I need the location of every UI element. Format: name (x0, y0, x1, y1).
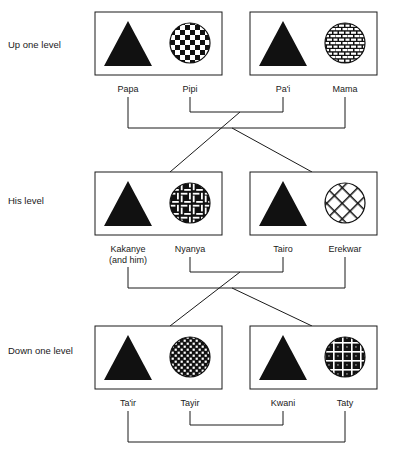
person-label-nyanya: Nyanya (175, 244, 206, 254)
person-label-kakanye: Kakanye (110, 244, 145, 254)
female-symbol-taty (325, 337, 365, 377)
person-label-pai: Pa'i (276, 84, 291, 94)
level-label-his-level: His level (8, 195, 44, 206)
kinship-diagram: Up one level His level Down one level Pa… (0, 0, 397, 455)
kinship-diagram-canvas: Up one level His level Down one level Pa… (0, 0, 397, 455)
level-group-his-level: Kakanye (and him) Nyanya Tairo Erekwar (95, 172, 377, 265)
person-label-pipi: Pipi (182, 84, 197, 94)
level-group-up-one-level: Papa Pipi Pa'i Mama (95, 12, 377, 94)
female-symbol-tayir (170, 337, 210, 377)
female-symbol-nyanya (170, 183, 210, 223)
person-label-taty: Taty (337, 398, 354, 408)
connector-group-level1-level2 (128, 97, 345, 172)
level-group-down-one-level: Ta'ir Tayir Kwani Taty (95, 326, 377, 408)
connector-group-level3-terminal (128, 411, 345, 442)
descent-line-kakanye-erekwar-to-kwani (232, 288, 312, 326)
marriage-bracket-pipi-pai (190, 97, 283, 112)
marriage-bracket-tayir-kwani (190, 411, 283, 425)
level-label-down-one-level: Down one level (8, 345, 73, 356)
marriage-bracket-tair-taty (128, 411, 345, 442)
level-label-up-one-level: Up one level (8, 39, 61, 50)
descent-line-nyanya-tairo-to-tair (170, 272, 240, 326)
person-label-tairo: Tairo (273, 244, 293, 254)
person-label-kakanye-subtitle: (and him) (109, 255, 147, 265)
female-symbol-mama (325, 23, 365, 63)
person-label-erekwar: Erekwar (328, 244, 361, 254)
marriage-bracket-nyanya-tairo (190, 257, 283, 272)
person-label-mama: Mama (332, 84, 357, 94)
descent-line-pipi-pai-to-kakanye (170, 112, 240, 172)
connector-group-level2-level3 (128, 257, 345, 326)
person-label-tayir: Tayir (180, 398, 199, 408)
female-symbol-erekwar (325, 183, 365, 223)
descent-line-papa-mama-to-tairo (232, 128, 312, 172)
person-label-papa: Papa (117, 84, 138, 94)
female-symbol-pipi (170, 23, 210, 63)
person-label-tair: Ta'ir (120, 398, 136, 408)
person-label-kwani: Kwani (271, 398, 296, 408)
